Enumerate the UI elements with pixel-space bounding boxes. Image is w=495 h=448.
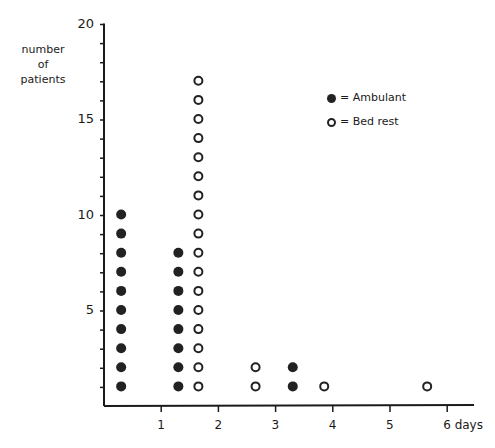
ambulant-point (116, 210, 126, 220)
bed-rest-point (194, 363, 202, 371)
ambulant-point (116, 229, 126, 239)
ambulant-point (116, 248, 126, 258)
ambulant-point (173, 381, 183, 391)
bed-rest-point (194, 344, 202, 352)
bed-rest-point (194, 287, 202, 295)
legend: = Ambulant = Bed rest (327, 86, 406, 134)
ambulant-point (173, 362, 183, 372)
x-tick-label: 3 (272, 418, 280, 432)
open-circle-icon (327, 118, 336, 127)
ambulant-point (116, 381, 126, 391)
ambulant-point (116, 305, 126, 315)
bed-rest-point (194, 77, 202, 85)
filled-circle-icon (327, 94, 336, 103)
x-tick-label: 1 (157, 418, 165, 432)
axes (100, 24, 474, 413)
ambulant-point (173, 286, 183, 296)
y-tick-label: 20 (77, 16, 94, 31)
dot-plot (0, 0, 495, 448)
legend-item-bed-rest: = Bed rest (327, 110, 406, 134)
ambulant-point (116, 286, 126, 296)
x-tick-label: 4 (329, 418, 337, 432)
bed-rest-point (194, 115, 202, 123)
bed-rest-point (194, 211, 202, 219)
ambulant-point (173, 267, 183, 277)
ambulant-point (173, 305, 183, 315)
bed-rest-point (194, 306, 202, 314)
bed-rest-point (194, 96, 202, 104)
bed-rest-point (194, 382, 202, 390)
bed-rest-point (252, 382, 260, 390)
ambulant-point (116, 324, 126, 334)
bed-rest-point (194, 191, 202, 199)
bed-rest-point (194, 268, 202, 276)
bed-rest-point (194, 230, 202, 238)
bed-rest-point (252, 363, 260, 371)
y-tick-label: 10 (77, 207, 94, 222)
y-axis-title: number of patients (18, 42, 68, 87)
legend-item-ambulant: = Ambulant (327, 86, 406, 110)
x-tick-label: 2 (214, 418, 222, 432)
bed-rest-point (194, 172, 202, 180)
y-tick-label: 5 (86, 302, 94, 317)
bed-rest-point (194, 249, 202, 257)
bed-rest-point (320, 382, 328, 390)
ambulant-point (116, 267, 126, 277)
ambulant-point (116, 343, 126, 353)
bed-rest-point (194, 325, 202, 333)
ambulant-point (116, 362, 126, 372)
bed-rest-point (423, 382, 431, 390)
ambulant-point (173, 248, 183, 258)
x-tick-label: 6 days (443, 418, 483, 432)
ambulant-point (288, 362, 298, 372)
ambulant-point (173, 343, 183, 353)
bed-rest-point (194, 153, 202, 161)
x-tick-label: 5 (386, 418, 394, 432)
bed-rest-point (194, 134, 202, 142)
y-tick-label: 15 (77, 111, 94, 126)
ambulant-point (173, 324, 183, 334)
ambulant-point (288, 381, 298, 391)
